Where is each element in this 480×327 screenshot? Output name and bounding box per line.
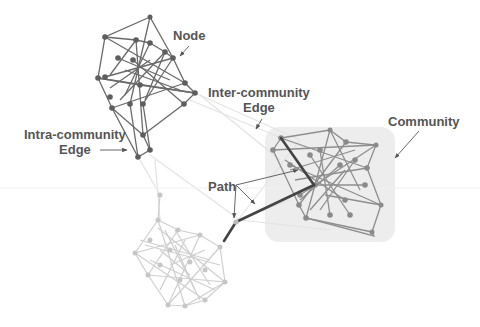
network-diagram [0,0,480,327]
label-inter-line2: Edge [208,100,310,115]
path-node [233,219,238,224]
label-inter-community-edge: Inter-community Edge [208,85,310,115]
label-inter-line1: Inter-community [208,85,310,100]
label-node: Node [173,28,206,43]
label-intra-community-edge: Intra-community Edge [24,127,126,157]
community-bottom [135,195,225,306]
label-community: Community [388,114,460,129]
label-intra-line2: Edge [24,142,126,157]
label-path: Path [208,179,236,194]
label-intra-line1: Intra-community [24,127,126,142]
